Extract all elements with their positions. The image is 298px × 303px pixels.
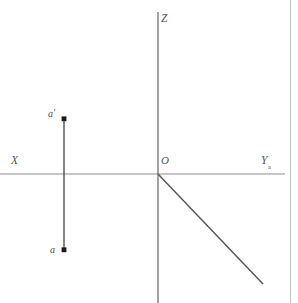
prime-mark: ′: [53, 107, 55, 118]
axis-label-x: X: [11, 155, 18, 167]
point-marker-a-prime: [62, 116, 67, 121]
figure-canvas: Z X Ya O a′ a: [0, 0, 298, 303]
origin-label: O: [161, 155, 169, 166]
point-label-a-prime: a′: [48, 109, 55, 119]
axis-label-y-text: Y: [261, 154, 268, 166]
axis-label-y-subscript: a: [268, 163, 271, 170]
point-label-a: a: [50, 245, 55, 255]
axis-label-z: Z: [161, 13, 168, 25]
geometry-diagram-svg: [0, 0, 298, 303]
axis-label-y: Ya: [261, 155, 271, 169]
point-marker-a: [62, 247, 67, 252]
oblique-ray-line: [158, 174, 263, 284]
